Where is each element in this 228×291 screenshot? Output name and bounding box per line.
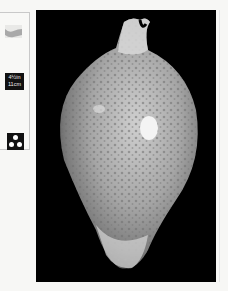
three-dots-icon	[7, 133, 24, 150]
size-badge: 4½in 11cm	[5, 73, 24, 90]
size-inches: 4½in	[5, 74, 24, 81]
wave-icon	[5, 25, 22, 38]
sidebar-key: 4½in 11cm	[0, 12, 30, 150]
cowrie-shell-image	[36, 10, 216, 282]
shell-photo	[36, 10, 216, 282]
page-edge-line	[219, 10, 220, 282]
size-cm: 11cm	[5, 81, 24, 88]
